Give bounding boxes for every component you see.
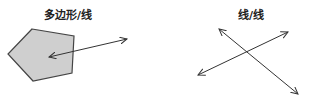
arrow-line-2 xyxy=(198,32,288,75)
pentagon-shape xyxy=(8,29,74,81)
arrow-line-3 xyxy=(219,29,298,94)
diagram-canvas xyxy=(0,0,310,103)
